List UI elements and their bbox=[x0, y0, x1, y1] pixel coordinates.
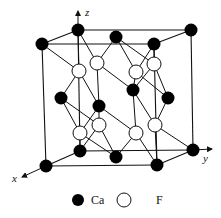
f-atom bbox=[148, 118, 162, 132]
ca-atom-left-face-center bbox=[55, 92, 68, 105]
ca-atom-bottom-front-left bbox=[40, 160, 53, 173]
f-atom bbox=[147, 57, 161, 71]
ca-atom-right-face-center bbox=[162, 92, 175, 105]
crystal-structure-svg: z y x Ca F bbox=[0, 0, 221, 218]
cube-edge bbox=[191, 30, 193, 150]
cube-edge bbox=[42, 44, 46, 166]
f-atoms bbox=[72, 56, 162, 140]
f-atom bbox=[72, 64, 86, 78]
f-legend-swatch bbox=[117, 193, 131, 207]
ca-atom-back-face-center bbox=[127, 84, 140, 97]
f-atom bbox=[129, 65, 143, 79]
f-atom bbox=[129, 126, 143, 140]
ca-atom-bottom-back-left bbox=[74, 145, 87, 158]
ca-atom-bottom-back-right bbox=[187, 144, 200, 157]
ca-legend-label: Ca bbox=[91, 193, 105, 207]
ca-atom-top-back-right bbox=[185, 24, 198, 37]
fluorite-crystal-diagram: z y x Ca F bbox=[0, 0, 221, 218]
ca-atom-top-front-right bbox=[148, 38, 161, 51]
ca-atom-top-front-left bbox=[36, 38, 49, 51]
y-axis-label: y bbox=[202, 152, 208, 164]
ca-atom-top-back-left bbox=[72, 24, 85, 37]
x-axis-label: x bbox=[11, 172, 17, 184]
ca-atom-bottom-face-center bbox=[110, 151, 123, 164]
f-legend-label: F bbox=[156, 193, 163, 207]
f-atom bbox=[90, 56, 104, 70]
cube-edge bbox=[46, 165, 157, 166]
z-axis-label: z bbox=[84, 6, 90, 18]
ca-legend-swatch bbox=[72, 194, 84, 206]
ca-atom-front-face-center bbox=[93, 100, 106, 113]
cube-edge bbox=[80, 150, 193, 151]
f-atom bbox=[73, 126, 87, 140]
f-atom bbox=[92, 118, 106, 132]
ca-atom-bottom-front-right bbox=[151, 159, 164, 172]
legend: Ca F bbox=[72, 193, 163, 207]
ca-atom-top-face-center bbox=[110, 31, 123, 44]
